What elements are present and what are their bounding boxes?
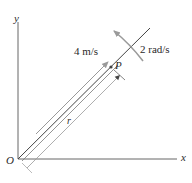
r-label: r xyxy=(67,116,71,126)
origin-label: O xyxy=(6,155,14,166)
r-dimension-tick-p xyxy=(114,70,125,80)
diagram-canvas xyxy=(0,0,192,183)
angular-velocity-arrow xyxy=(114,31,143,61)
point-p-label: P xyxy=(115,60,122,71)
point-p-marker xyxy=(109,65,112,68)
r-dimension-line xyxy=(27,75,120,168)
rod-line-inner xyxy=(22,65,118,161)
velocity-label: 4 m/s xyxy=(74,46,98,57)
x-axis-label: x xyxy=(181,152,186,163)
angular-velocity-label: 2 rad/s xyxy=(140,44,170,55)
y-axis-label: y xyxy=(14,13,19,24)
rotating-rod-diagram: y x O P r 4 m/s 2 rad/s xyxy=(0,0,192,183)
